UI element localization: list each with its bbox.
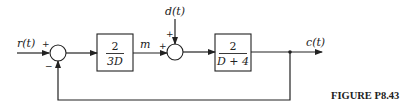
block-2-denominator: D + 4 xyxy=(216,55,249,68)
sj1-minus-sign: − xyxy=(45,61,53,71)
feedback-path xyxy=(58,52,290,100)
block-1-numerator: 2 xyxy=(112,40,119,53)
block-2-numerator: 2 xyxy=(230,40,237,53)
summing-junction-1 xyxy=(50,45,66,61)
m-signal-label: m xyxy=(140,38,150,51)
input-label: r(t) xyxy=(17,37,35,50)
sj1-plus-sign: + xyxy=(42,39,50,49)
figure-caption: FIGURE P8.43 xyxy=(331,90,399,101)
sj2-plus-left: + xyxy=(159,41,167,51)
disturbance-label: d(t) xyxy=(165,5,185,18)
block-1-denominator: 3D xyxy=(107,55,123,68)
output-label: c(t) xyxy=(306,36,325,49)
sj2-plus-top: + xyxy=(166,29,174,39)
block-diagram: r(t) + − 2 3D m + d(t) + 2 D + 4 c(t) FI… xyxy=(0,0,406,111)
summing-junction-2 xyxy=(167,44,183,60)
